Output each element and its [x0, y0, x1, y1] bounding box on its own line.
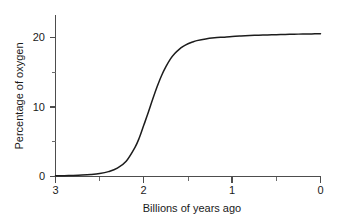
- y-axis-title: Percentage of oxygen: [13, 42, 25, 149]
- oxygen-percentage-line-chart: 0 10 20 3 2 1 0 Billions of years ago Pe…: [0, 0, 340, 219]
- x-tick-label-0: 0: [317, 184, 323, 196]
- chart-figure: 0 10 20 3 2 1 0 Billions of years ago Pe…: [0, 0, 340, 219]
- oxygen-curve: [56, 34, 321, 176]
- y-tick-label-20: 20: [33, 31, 45, 43]
- y-tick-label-10: 10: [33, 101, 45, 113]
- x-tick-label-2: 2: [140, 184, 146, 196]
- y-tick-label-0: 0: [39, 170, 45, 182]
- x-axis-title: Billions of years ago: [143, 202, 241, 214]
- x-tick-label-1: 1: [229, 184, 235, 196]
- x-tick-label-3: 3: [52, 184, 58, 196]
